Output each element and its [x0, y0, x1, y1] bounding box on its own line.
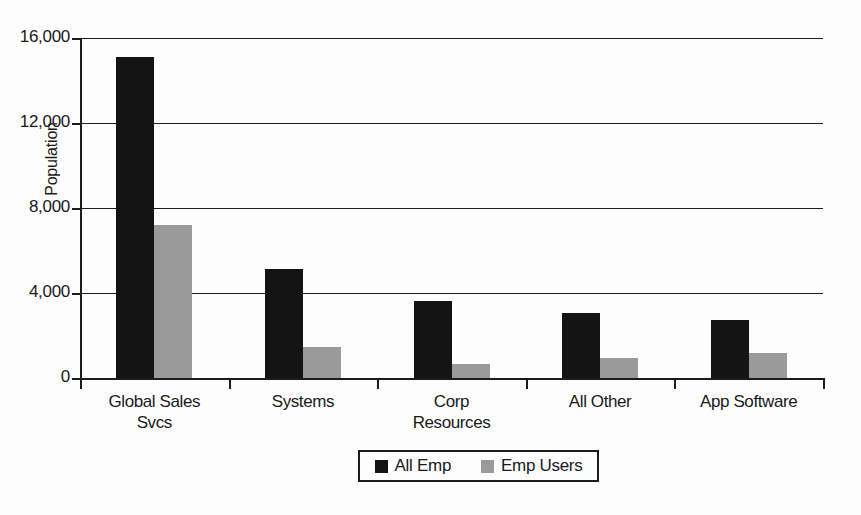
category-label-line: All Other	[526, 392, 675, 413]
bar-all-emp-3[interactable]	[562, 313, 600, 378]
category-label-line: Svcs	[80, 413, 229, 434]
legend-label-0: All Emp	[395, 456, 451, 476]
bar-emp-users-2[interactable]	[452, 364, 490, 378]
chart-page: Population 04,0008,00012,00016,000 Globa…	[0, 0, 861, 515]
bar-all-emp-4[interactable]	[711, 320, 749, 378]
category-label-line: Corp	[377, 392, 526, 413]
x-tick-mark-5	[823, 378, 825, 389]
category-label-line: Systems	[229, 392, 378, 413]
category-label-4: App Software	[674, 392, 823, 413]
category-label-3: All Other	[526, 392, 675, 413]
category-label-line: Global Sales	[80, 392, 229, 413]
legend-swatch-icon-0	[375, 460, 388, 473]
y-tick-label-0: 0	[0, 367, 70, 387]
category-label-line: Resources	[377, 413, 526, 434]
category-label-2: CorpResources	[377, 392, 526, 433]
x-tick-mark-4	[674, 378, 676, 389]
legend-entry-0[interactable]: All Emp	[375, 456, 451, 476]
y-tick-label-16000: 16,000	[0, 27, 70, 47]
legend-label-1: Emp Users	[501, 456, 582, 476]
gridline-8000	[80, 208, 823, 209]
x-tick-mark-3	[526, 378, 528, 389]
chart-legend[interactable]: All EmpEmp Users	[358, 450, 599, 482]
category-label-1: Systems	[229, 392, 378, 413]
bar-emp-users-1[interactable]	[303, 347, 341, 378]
legend-entry-1[interactable]: Emp Users	[481, 456, 582, 476]
bar-all-emp-2[interactable]	[414, 301, 452, 378]
bar-all-emp-0[interactable]	[116, 57, 154, 378]
legend-swatch-icon-1	[481, 460, 494, 473]
gridline-16000	[80, 38, 823, 39]
gridline-12000	[80, 123, 823, 124]
bar-emp-users-4[interactable]	[749, 353, 787, 378]
category-label-0: Global SalesSvcs	[80, 392, 229, 433]
bar-all-emp-1[interactable]	[265, 269, 303, 378]
bar-emp-users-0[interactable]	[154, 225, 192, 378]
category-label-line: App Software	[674, 392, 823, 413]
x-tick-mark-1	[229, 378, 231, 389]
y-tick-label-8000: 8,000	[0, 197, 70, 217]
plot-area	[80, 38, 823, 378]
y-tick-label-4000: 4,000	[0, 282, 70, 302]
y-tick-label-12000: 12,000	[0, 112, 70, 132]
x-tick-mark-0	[80, 378, 82, 389]
x-axis-line	[80, 378, 823, 380]
x-tick-mark-2	[377, 378, 379, 389]
bar-emp-users-3[interactable]	[600, 358, 638, 378]
